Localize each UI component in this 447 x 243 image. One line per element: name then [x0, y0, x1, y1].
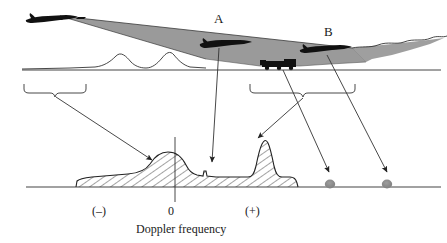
axis-label-positive: (+) — [245, 205, 260, 217]
label-target-b: B — [324, 25, 333, 38]
beam-far-edge — [352, 38, 444, 62]
axis-label-negative: (–) — [92, 205, 106, 217]
arrow-vehicle-to-blob — [283, 70, 329, 172]
mainlobe-clutter-brace — [250, 84, 355, 97]
clutter-spectrum-area — [76, 140, 298, 187]
arrow-sidelobe-to-pedestal — [56, 97, 152, 160]
terrain-profile-line — [22, 52, 206, 69]
radar-clutter-diagram — [0, 0, 447, 243]
arrow-targetA-to-spectrum — [212, 48, 219, 162]
figure-canvas: A B (–) 0 (+) Doppler frequency — [0, 0, 447, 243]
arrow-targetB-to-blob — [327, 55, 387, 172]
arrow-mainlobe-to-peak — [258, 98, 303, 138]
axis-label-zero: 0 — [168, 205, 174, 217]
label-target-a: A — [214, 12, 223, 25]
axis-title: Doppler frequency — [136, 223, 226, 235]
target-return-blob-B — [382, 180, 392, 189]
target-return-blob-A — [325, 180, 335, 189]
sidelobe-clutter-brace — [24, 84, 86, 97]
